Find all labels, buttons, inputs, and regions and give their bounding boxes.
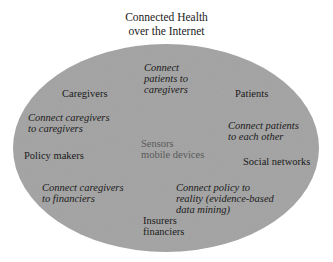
connection-caregivers-to-caregivers: Connect caregivers to caregivers [28, 112, 110, 134]
title-line-1: Connected Health [0, 10, 333, 24]
stakeholder-line: Insurers [143, 215, 184, 226]
stakeholder-caregivers: Caregivers [62, 88, 107, 99]
center-sensors-mobile-devices: Sensors mobile devices [141, 138, 204, 160]
connection-line: to each other [228, 131, 299, 142]
connection-line: Connect [144, 62, 188, 73]
connection-line: to caregivers [28, 123, 110, 134]
stakeholder-line: financiers [143, 226, 184, 237]
title-line-2: over the Internet [0, 24, 333, 38]
connection-line: Connect caregivers [28, 112, 110, 123]
connection-patients-to-caregivers: Connect patients to caregivers [144, 62, 188, 95]
stakeholder-policy-makers: Policy makers [24, 150, 84, 161]
connection-line: Connect patients [228, 120, 299, 131]
connection-line: to financiers [42, 193, 124, 204]
stakeholder-patients: Patients [235, 88, 268, 99]
connection-line: reality (evidence-based [176, 193, 274, 204]
connection-policy-to-reality: Connect policy to reality (evidence-base… [176, 182, 274, 215]
stakeholder-social-networks: Social networks [243, 156, 310, 167]
diagram-title: Connected Health over the Internet [0, 10, 333, 38]
stakeholder-insurers-financiers: Insurers financiers [143, 215, 184, 237]
center-line: Sensors [141, 138, 204, 149]
connection-patients-to-each-other: Connect patients to each other [228, 120, 299, 142]
connection-line: Connect policy to [176, 182, 274, 193]
connection-line: data mining) [176, 204, 274, 215]
center-line: mobile devices [141, 149, 204, 160]
connection-caregivers-to-financiers: Connect caregivers to financiers [42, 182, 124, 204]
connection-line: caregivers [144, 84, 188, 95]
connection-line: Connect caregivers [42, 182, 124, 193]
connection-line: patients to [144, 73, 188, 84]
